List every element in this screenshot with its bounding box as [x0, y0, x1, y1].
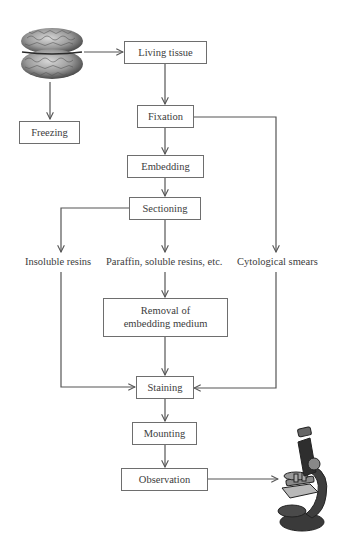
node-label: Living tissue: [138, 47, 193, 59]
node-label: Embedding: [141, 161, 189, 173]
node-label: Sectioning: [143, 203, 188, 215]
node-label: Freezing: [31, 127, 68, 139]
node-insoluble-resins: Insoluble resins: [25, 256, 91, 267]
node-mounting: Mounting: [132, 422, 197, 445]
node-label: Mounting: [144, 428, 185, 440]
microscope-icon: [276, 426, 332, 534]
node-label-line1: Removal of: [141, 305, 190, 317]
node-freezing: Freezing: [19, 121, 80, 144]
node-observation: Observation: [121, 468, 208, 491]
node-removal-of-embedding-medium: Removal of embedding medium: [103, 298, 228, 337]
node-label: Fixation: [148, 111, 183, 123]
node-paraffin: Paraffin, soluble resins, etc.: [106, 256, 222, 267]
node-label: Observation: [139, 474, 190, 486]
node-embedding: Embedding: [127, 155, 204, 178]
node-staining: Staining: [136, 376, 194, 399]
node-sectioning: Sectioning: [129, 197, 201, 220]
node-label-line2: embedding medium: [124, 318, 208, 330]
brain-icon: [19, 26, 85, 82]
node-label: Staining: [147, 382, 182, 394]
node-living-tissue: Living tissue: [124, 41, 207, 64]
node-fixation: Fixation: [137, 105, 194, 128]
node-cytological-smears: Cytological smears: [237, 256, 318, 267]
